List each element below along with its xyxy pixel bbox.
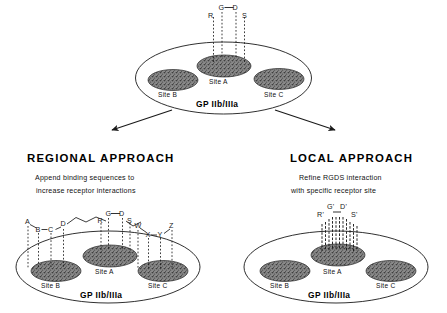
- residue-r-core-left: R: [98, 217, 103, 224]
- site-label-c-top: Site C: [264, 92, 283, 99]
- site-label-a-left: Site A: [95, 269, 114, 276]
- figure-canvas: R G D S Site B Site A Site C GP IIb/IIIa…: [0, 0, 447, 313]
- regional-subtitle-line2: increase receptor interactions: [36, 188, 136, 195]
- site-label-a-right: Site A: [323, 269, 342, 276]
- residue-w-left: W: [135, 222, 142, 229]
- arrow-to-regional: [112, 110, 172, 130]
- receptor-label-top: GP IIb/IIIa: [196, 100, 238, 108]
- site-label-a-top: Site A: [209, 79, 228, 86]
- site-b-ellipse-top: [148, 70, 198, 91]
- residue-c-left: C: [48, 226, 53, 233]
- regional-subtitle-line1: Append binding sequences to: [35, 175, 134, 182]
- residue-s-top: S: [242, 12, 247, 19]
- residue-r-prime-right: R': [317, 211, 324, 218]
- site-label-c-left: Site C: [148, 283, 167, 290]
- residue-d-left: D: [61, 220, 66, 227]
- residue-z-left: Z: [169, 222, 174, 229]
- residue-d-core-left: D: [119, 210, 124, 217]
- site-a-ellipse-left: [83, 245, 137, 267]
- residue-r-top: R: [208, 12, 213, 19]
- contact-lines-top: [214, 12, 245, 62]
- residue-g-core-left: G: [106, 210, 112, 217]
- receptor-label-right: GP IIb/IIIa: [308, 291, 350, 299]
- residue-g-top: G: [219, 4, 225, 11]
- residue-b-left: B: [36, 226, 41, 233]
- residue-a-left: A: [25, 218, 30, 225]
- site-a-ellipse-top: [197, 55, 251, 77]
- residue-s-prime-right: S': [351, 211, 358, 218]
- local-subtitle-line1: Refine RGDS interaction: [299, 175, 382, 182]
- arrow-to-local: [275, 110, 335, 130]
- local-subtitle-line2: with specific receptor site: [291, 188, 376, 195]
- site-label-c-right: Site C: [376, 283, 395, 290]
- site-label-b-right: Site B: [270, 283, 289, 290]
- residue-s-core-left: S: [127, 217, 132, 224]
- site-label-b-left: Site B: [41, 283, 60, 290]
- residue-y-left: Y: [158, 231, 163, 238]
- residue-g-prime-right: G': [327, 203, 334, 210]
- regional-approach-heading: REGIONAL APPROACH: [27, 153, 174, 164]
- residue-x-left: X: [146, 231, 151, 238]
- residue-d-prime-right: D': [340, 203, 347, 210]
- site-b-ellipse-left: [31, 261, 81, 282]
- local-approach-heading: LOCAL APPROACH: [290, 153, 413, 164]
- site-b-ellipse-right: [260, 261, 310, 282]
- receptor-label-left: GP IIb/IIIa: [80, 291, 122, 299]
- residue-d-top: D: [233, 4, 238, 11]
- site-c-ellipse-top: [254, 69, 304, 90]
- site-label-b-top: Site B: [158, 92, 177, 99]
- site-c-ellipse-left: [138, 261, 188, 282]
- site-c-ellipse-right: [366, 261, 416, 282]
